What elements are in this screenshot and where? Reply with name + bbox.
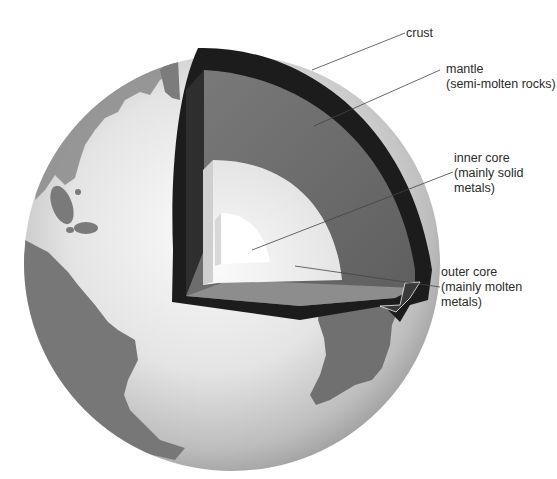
label-mantle-line: (semi-molten rocks): [446, 77, 556, 92]
label-inner-core-line: inner core: [454, 151, 523, 166]
cutaway: [172, 48, 432, 322]
label-outer-core-line: outer core: [441, 265, 522, 280]
crust-leader-line: [312, 33, 405, 70]
caribbean-island: [74, 222, 98, 234]
label-inner-core-line: metals): [454, 181, 523, 196]
caribbean-island: [75, 189, 81, 195]
label-outer-core-line: (mainly molten: [441, 280, 522, 295]
globe: [20, 48, 440, 471]
label-crust: crust: [406, 26, 433, 41]
label-outer-core-line: metals): [441, 295, 522, 310]
outer-core-side-face: [203, 160, 213, 285]
label-outer-core: outer core (mainly molten metals): [441, 265, 522, 310]
caribbean-island: [66, 227, 74, 233]
label-inner-core-line: (mainly solid: [454, 166, 523, 181]
label-crust-line: crust: [406, 26, 433, 41]
label-inner-core: inner core (mainly solid metals): [454, 151, 523, 196]
label-mantle: mantle (semi-molten rocks): [446, 62, 556, 92]
label-mantle-line: mantle: [446, 62, 556, 77]
inner-core-side-face: [215, 213, 221, 266]
